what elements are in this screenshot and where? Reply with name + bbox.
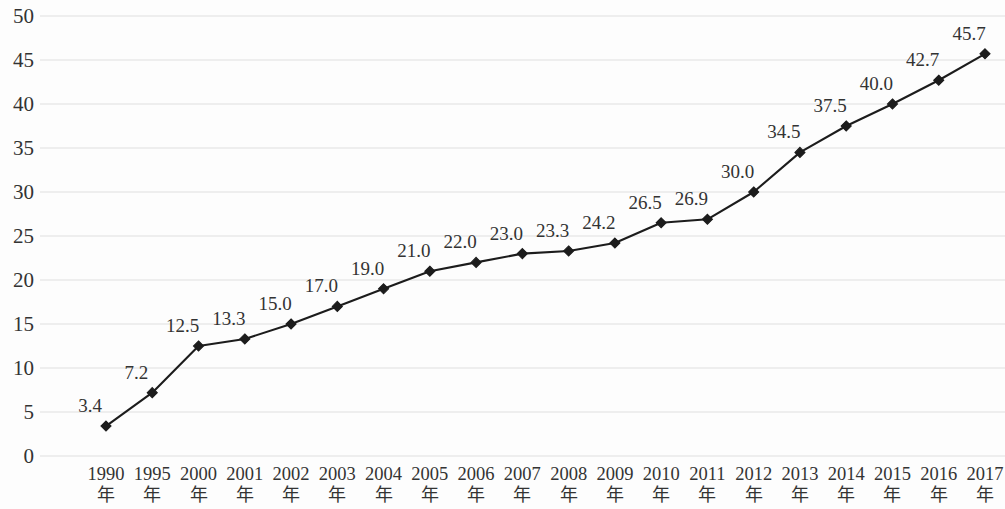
data-point-label: 23.0	[490, 224, 523, 243]
x-tick-unit: 年	[504, 485, 541, 506]
x-axis-tick-label: 1990年	[88, 464, 125, 506]
x-tick-year: 2008	[550, 464, 587, 485]
y-axis-tick-label: 0	[0, 446, 34, 467]
data-point-marker	[841, 121, 851, 131]
x-tick-year: 2004	[365, 464, 402, 485]
x-tick-year: 2006	[458, 464, 495, 485]
x-tick-unit: 年	[967, 485, 1004, 506]
x-tick-year: 2002	[273, 464, 310, 485]
x-tick-unit: 年	[828, 485, 865, 506]
x-axis-tick-label: 2017年	[967, 464, 1004, 506]
chart-plot-area	[0, 0, 1005, 509]
x-axis-tick-label: 2002年	[273, 464, 310, 506]
data-point-label: 42.7	[906, 50, 939, 69]
x-axis-tick-label: 2009年	[596, 464, 633, 506]
x-axis-tick-label: 2005年	[411, 464, 448, 506]
x-axis-tick-label: 2012年	[735, 464, 772, 506]
data-point-marker	[702, 214, 712, 224]
x-tick-unit: 年	[735, 485, 772, 506]
y-axis-tick-label: 20	[0, 270, 34, 291]
x-tick-unit: 年	[781, 485, 818, 506]
x-tick-year: 2009	[596, 464, 633, 485]
data-point-label: 26.5	[629, 193, 662, 212]
data-point-label: 45.7	[952, 24, 985, 43]
y-axis-tick-label: 10	[0, 358, 34, 379]
data-point-label: 7.2	[124, 363, 148, 382]
data-point-marker	[240, 334, 250, 344]
x-tick-year: 2007	[504, 464, 541, 485]
x-tick-year: 2003	[319, 464, 356, 485]
x-axis-tick-label: 2001年	[226, 464, 263, 506]
data-point-label: 12.5	[166, 316, 199, 335]
x-axis-tick-label: 2003年	[319, 464, 356, 506]
data-point-label: 30.0	[721, 162, 754, 181]
x-tick-year: 2001	[226, 464, 263, 485]
data-point-label: 19.0	[351, 259, 384, 278]
data-point-marker	[425, 266, 435, 276]
data-point-marker	[517, 249, 527, 259]
x-tick-year: 2013	[781, 464, 818, 485]
x-axis-tick-label: 2006年	[458, 464, 495, 506]
y-axis-tick-label: 25	[0, 226, 34, 247]
x-axis-tick-label: 2004年	[365, 464, 402, 506]
data-point-label: 15.0	[258, 294, 291, 313]
x-tick-unit: 年	[689, 485, 725, 506]
x-tick-unit: 年	[920, 485, 957, 506]
x-tick-unit: 年	[550, 485, 587, 506]
data-point-marker	[656, 218, 666, 228]
data-point-label: 26.9	[675, 189, 708, 208]
x-tick-unit: 年	[88, 485, 125, 506]
x-tick-unit: 年	[874, 485, 911, 506]
x-tick-unit: 年	[458, 485, 495, 506]
data-point-label: 24.2	[582, 213, 615, 232]
data-point-marker	[610, 238, 620, 248]
data-point-label: 22.0	[443, 232, 476, 251]
x-tick-year: 2012	[735, 464, 772, 485]
data-point-label: 23.3	[536, 221, 569, 240]
x-axis-tick-label: 2000年	[180, 464, 217, 506]
data-point-label: 34.5	[767, 122, 800, 141]
x-tick-unit: 年	[643, 485, 680, 506]
data-point-label: 21.0	[397, 241, 430, 260]
x-tick-year: 2015	[874, 464, 911, 485]
y-axis-tick-label: 15	[0, 314, 34, 335]
y-axis-tick-label: 5	[0, 402, 34, 423]
x-tick-unit: 年	[319, 485, 356, 506]
x-axis-tick-label: 2015年	[874, 464, 911, 506]
data-point-label: 13.3	[212, 309, 245, 328]
x-axis-tick-label: 2014年	[828, 464, 865, 506]
x-tick-year: 2000	[180, 464, 217, 485]
x-axis-tick-label: 2016年	[920, 464, 957, 506]
data-point-label: 3.4	[78, 396, 102, 415]
y-axis-tick-label: 30	[0, 182, 34, 203]
x-tick-unit: 年	[365, 485, 402, 506]
x-axis-tick-label: 2010年	[643, 464, 680, 506]
x-tick-unit: 年	[596, 485, 633, 506]
data-point-marker	[934, 75, 944, 85]
x-tick-year: 2016	[920, 464, 957, 485]
data-point-label: 17.0	[305, 276, 338, 295]
data-point-marker	[887, 99, 897, 109]
data-point-marker	[471, 257, 481, 267]
data-point-marker	[332, 301, 342, 311]
x-tick-year: 2017	[967, 464, 1004, 485]
data-point-label: 37.5	[814, 96, 847, 115]
x-axis-tick-label: 2008年	[550, 464, 587, 506]
data-point-marker	[379, 284, 389, 294]
x-tick-year: 1995	[134, 464, 171, 485]
x-tick-unit: 年	[180, 485, 217, 506]
x-axis-tick-label: 2011年	[689, 464, 725, 506]
line-chart: 05101520253035404550 1990年1995年2000年2001…	[0, 0, 1005, 509]
data-point-label: 40.0	[860, 74, 893, 93]
x-tick-year: 2011	[689, 464, 725, 485]
x-axis-tick-label: 1995年	[134, 464, 171, 506]
y-axis-tick-label: 40	[0, 94, 34, 115]
y-axis-tick-label: 45	[0, 50, 34, 71]
x-tick-year: 2010	[643, 464, 680, 485]
x-tick-year: 1990	[88, 464, 125, 485]
data-point-marker	[564, 246, 574, 256]
data-point-marker	[286, 319, 296, 329]
x-tick-unit: 年	[411, 485, 448, 506]
x-tick-year: 2005	[411, 464, 448, 485]
y-axis-tick-label: 35	[0, 138, 34, 159]
